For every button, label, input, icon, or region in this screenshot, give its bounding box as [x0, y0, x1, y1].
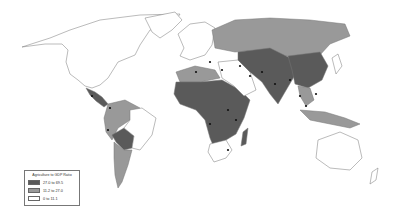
legend-label-high: 27.0 to 69.5 — [43, 181, 63, 185]
region-north-africa — [176, 66, 220, 82]
region-australia — [316, 132, 362, 170]
map-legend: Agriculture to GDP Ratio 27.0 to 69.5 11… — [24, 170, 80, 206]
region-russia — [212, 18, 350, 58]
region-china — [288, 52, 328, 88]
legend-item-low: 0 to 11.1 — [28, 195, 76, 202]
region-indonesia — [300, 110, 360, 128]
region-japan-korea — [332, 54, 342, 74]
region-central-america — [86, 88, 108, 107]
region-madagascar — [241, 128, 248, 146]
legend-swatch-high — [28, 180, 40, 185]
region-new-zealand — [370, 168, 378, 184]
legend-label-mid: 11.2 to 27.0 — [43, 189, 63, 193]
legend-item-mid: 11.2 to 27.0 — [28, 187, 76, 194]
region-europe — [178, 22, 215, 60]
legend-title: Agriculture to GDP Ratio — [28, 173, 76, 177]
legend-swatch-low — [28, 196, 40, 201]
legend-label-low: 0 to 11.1 — [43, 197, 58, 201]
legend-swatch-mid — [28, 188, 40, 193]
legend-item-high: 27.0 to 69.5 — [28, 179, 76, 186]
